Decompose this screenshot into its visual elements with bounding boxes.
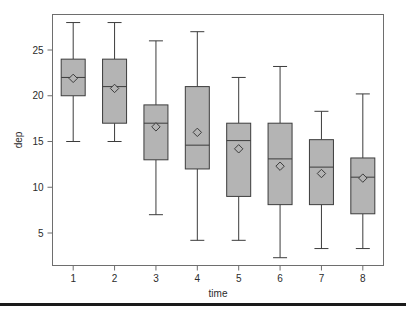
x-axis-tick-label: 4 (195, 273, 201, 284)
box-plot-item[interactable] (185, 32, 209, 241)
x-axis-tick-label: 3 (153, 273, 159, 284)
x-axis-tick-label: 6 (277, 273, 283, 284)
box-plot-item[interactable] (309, 111, 333, 248)
box-plot-chart: 510152025 12345678 dep time (0, 0, 406, 312)
box-iqr[interactable] (227, 123, 251, 196)
x-axis-tick-label: 1 (70, 273, 76, 284)
box-plot-item[interactable] (351, 94, 375, 249)
y-axis-tick-label: 20 (32, 90, 44, 101)
box-plot-item[interactable] (268, 66, 292, 257)
box-plot-item[interactable] (144, 41, 168, 215)
x-axis-tick-label: 5 (236, 273, 242, 284)
x-axis-title: time (209, 288, 228, 299)
box-plot-item[interactable] (103, 23, 127, 142)
x-axis: 12345678 (70, 266, 366, 284)
box-iqr[interactable] (144, 105, 168, 160)
box-plot-item[interactable] (61, 23, 85, 142)
boxes-layer (61, 23, 375, 258)
figure-container: 510152025 12345678 dep time (0, 0, 406, 312)
y-axis: 510152025 (32, 45, 52, 239)
footer-divider (0, 303, 406, 306)
y-axis-title: dep (13, 131, 24, 148)
x-axis-tick-label: 8 (360, 273, 366, 284)
x-axis-tick-label: 7 (319, 273, 325, 284)
x-axis-tick-label: 2 (112, 273, 118, 284)
y-axis-tick-label: 25 (32, 45, 44, 56)
y-axis-tick-label: 5 (38, 228, 44, 239)
box-iqr[interactable] (351, 158, 375, 214)
y-axis-tick-label: 15 (32, 136, 44, 147)
y-axis-tick-label: 10 (32, 182, 44, 193)
box-plot-item[interactable] (227, 77, 251, 240)
